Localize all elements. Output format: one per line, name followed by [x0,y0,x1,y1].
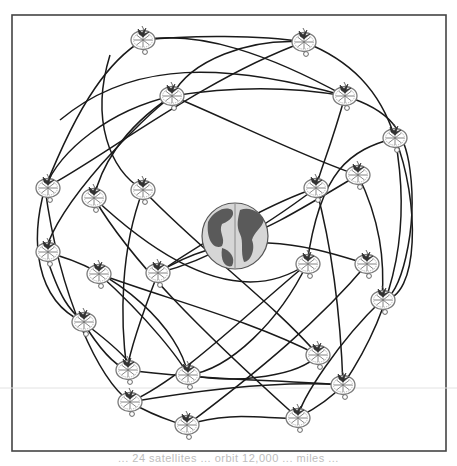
earth-globe [202,203,268,269]
figure-caption: ... 24 satellites ... orbit 12,000 ... m… [0,452,457,466]
